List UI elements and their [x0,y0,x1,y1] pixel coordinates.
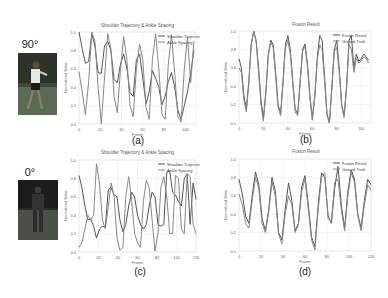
y-tick-label: 0.8 [230,47,236,52]
chart-a: 0.00.20.40.60.81.0020406080100FrameNorma… [62,28,200,138]
x-axis-label: Frame [299,259,311,264]
y-axis-label: Normalized Data [223,61,228,92]
y-tick-label: 0.6 [70,66,76,71]
chart-c: 0.00.20.40.60.81.0020406080100120FrameNo… [62,156,200,266]
y-tick-label: 0.0 [70,122,76,127]
y-tick-label: 0.4 [230,212,236,217]
walker-photo-side-view [18,53,57,115]
y-tick-label: 0.8 [230,175,236,180]
legend-label: Fusion Result [342,161,367,166]
chart-a-caption: (a) [123,135,153,146]
y-tick-label: 0.6 [230,193,236,198]
x-tick-label: 20 [259,254,264,259]
chart-d-title: Fusion Result [240,149,372,154]
y-tick-label: 1.0 [230,157,236,162]
x-tick-label: 80 [162,127,167,132]
x-tick-label: 40 [286,126,291,131]
legend-label: Ground Truth [342,39,366,44]
view-angle-label-0: 0° [10,166,50,178]
y-tick-label: 0.0 [230,121,236,126]
y-axis-label: Normalized Data [223,189,228,220]
chart-c-caption: (c) [125,266,155,277]
x-tick-label: 40 [119,127,124,132]
y-tick-label: 1.0 [70,158,76,163]
y-tick-label: 1.0 [70,30,76,35]
legend-label: Fusion Result [342,33,367,38]
x-tick-label: 0 [238,254,241,259]
legend-label: Ankle Spacing [167,40,193,45]
x-axis-label: Frame [132,260,144,265]
x-tick-label: 20 [96,255,101,260]
chart-b: 0.00.20.40.60.81.0020406080100FrameNorma… [222,27,382,137]
y-tick-label: 0.2 [70,231,76,236]
chart-d-caption: (d) [290,266,320,277]
y-tick-label: 0.6 [230,65,236,70]
y-tick-label: 0.0 [70,250,76,255]
y-axis-label: Normalized Data [63,190,68,221]
x-tick-label: 0 [238,126,241,131]
y-tick-label: 0.2 [230,102,236,107]
walker-photo-front-view [18,180,58,240]
view-angle-label-90: 90° [10,38,50,50]
x-tick-label: 120 [368,254,375,259]
y-tick-label: 0.2 [230,230,236,235]
x-tick-label: 20 [98,127,103,132]
plot-area [79,32,196,124]
x-tick-label: 120 [193,255,200,260]
legend-label: Shoulder Trajectory [167,34,200,39]
x-tick-label: 60 [310,126,315,131]
x-tick-label: 100 [358,126,365,131]
x-tick-label: 100 [346,254,353,259]
x-tick-label: 100 [182,127,189,132]
chart-c-title: Shoulder Trajectory & Ankle Spacing [79,150,196,155]
legend-label: Shoulder Trajectory [167,162,200,167]
y-tick-label: 0.4 [70,85,76,90]
x-tick-label: 100 [173,255,180,260]
legend-label: Ground Truth [342,167,366,172]
chart-d: 0.00.20.40.60.81.0020406080100120FrameNo… [222,155,382,265]
y-tick-label: 1.0 [230,29,236,34]
y-tick-label: 0.4 [70,213,76,218]
y-tick-label: 0.4 [230,84,236,89]
x-tick-label: 40 [116,255,121,260]
x-tick-label: 80 [335,126,340,131]
chart-b-caption: (b) [291,134,321,145]
y-tick-label: 0.0 [230,249,236,254]
x-tick-label: 80 [155,255,160,260]
x-tick-label: 0 [78,127,81,132]
legend-label: Ankle Spacing [167,168,193,173]
x-tick-label: 40 [281,254,286,259]
x-tick-label: 80 [325,254,330,259]
y-tick-label: 0.8 [70,48,76,53]
x-tick-label: 0 [78,255,81,260]
y-tick-label: 0.6 [70,194,76,199]
y-tick-label: 0.2 [70,103,76,108]
y-axis-label: Normalized Data [63,62,68,93]
y-tick-label: 0.8 [70,176,76,181]
x-tick-label: 20 [261,126,266,131]
